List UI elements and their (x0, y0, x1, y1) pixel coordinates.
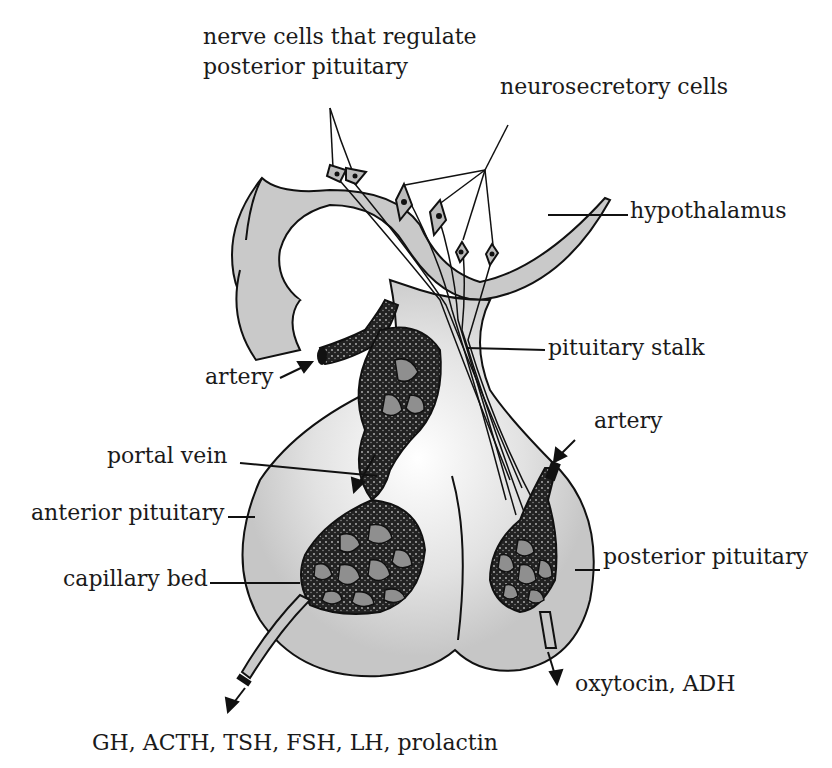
label-capillary-bed: capillary bed (63, 566, 208, 592)
label-posterior-pituitary: posterior pituitary (603, 544, 808, 570)
label-nerve-cells-line1: nerve cells that regulate (203, 24, 477, 50)
label-neurosecretory-cells: neurosecretory cells (500, 74, 728, 100)
label-artery-right: artery (594, 408, 662, 434)
label-portal-vein: portal vein (107, 443, 227, 469)
label-posterior-hormones: oxytocin, ADH (575, 671, 735, 697)
pituitary-diagram: nerve cells that regulate posterior pitu… (0, 0, 832, 768)
label-nerve-cells-line2: posterior pituitary (203, 54, 408, 80)
label-anterior-hormones: GH, ACTH, TSH, FSH, LH, prolactin (92, 730, 498, 756)
label-anterior-pituitary: anterior pituitary (31, 500, 225, 526)
label-hypothalamus: hypothalamus (630, 198, 787, 224)
diagram-artwork (0, 0, 832, 768)
label-pituitary-stalk: pituitary stalk (548, 335, 705, 361)
label-artery-left: artery (205, 364, 273, 390)
